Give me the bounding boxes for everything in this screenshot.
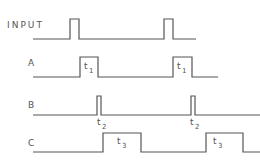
timing-diagram: INPUT A t 1 t 1 B t 2 t 2 C t 3 t 3 — [0, 0, 260, 164]
signal-b: B t 2 t 2 — [28, 96, 260, 131]
annotation-t1-first-sub: 1 — [89, 67, 93, 75]
annotation-t3-second: t — [213, 136, 217, 146]
waveform-b — [33, 96, 260, 115]
annotation-t2-first-sub: 2 — [102, 123, 106, 131]
annotation-t2-second-sub: 2 — [195, 123, 199, 131]
signal-label-b: B — [28, 100, 34, 110]
annotation-t1-second-sub: 1 — [182, 67, 186, 75]
annotation-t1-first: t — [84, 61, 88, 71]
annotation-t1-second: t — [177, 61, 181, 71]
signal-label-c: C — [28, 138, 34, 148]
signal-input: INPUT — [7, 19, 196, 39]
waveform-a — [33, 57, 218, 77]
annotation-t2-first: t — [97, 117, 101, 127]
annotation-t3-second-sub: 3 — [218, 142, 222, 150]
signal-label-a: A — [28, 58, 35, 68]
annotation-t2-second: t — [190, 117, 194, 127]
signal-label-input: INPUT — [7, 20, 44, 30]
signal-a: A t 1 t 1 — [28, 57, 218, 77]
waveform-c — [33, 133, 260, 152]
waveform-input — [33, 19, 196, 39]
annotation-t3-first: t — [117, 136, 121, 146]
signal-c: C t 3 t 3 — [28, 133, 260, 152]
annotation-t3-first-sub: 3 — [122, 142, 126, 150]
